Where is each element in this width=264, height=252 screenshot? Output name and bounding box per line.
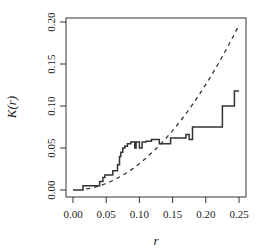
y-tick-label: 0.05 [45,138,57,158]
x-tick-label: 0.25 [229,208,249,220]
y-tick-label: 0.00 [45,180,57,200]
x-tick-label: 0.20 [196,208,216,220]
y-tick-label: 0.10 [45,96,57,116]
x-axis: 0.000.050.100.150.200.25 [63,197,249,220]
y-tick-label: 0.20 [45,12,57,32]
k-function-chart: 0.000.050.100.150.20 0.000.050.100.150.2… [0,0,264,252]
x-tick-label: 0.00 [63,208,83,220]
x-tick-label: 0.05 [97,208,117,220]
y-axis: 0.000.050.100.150.20 [45,12,66,200]
x-axis-label: r [153,233,159,248]
empirical-step-line [73,91,239,190]
x-tick-label: 0.10 [130,208,150,220]
plot-frame [66,18,246,197]
y-axis-label: K(r) [4,96,19,119]
y-tick-label: 0.15 [45,54,57,74]
x-tick-label: 0.15 [163,208,183,220]
theoretical-curve [86,25,239,189]
